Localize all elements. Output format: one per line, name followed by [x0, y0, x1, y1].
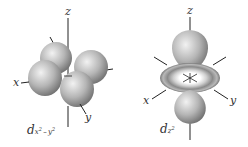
z-axis-label: z	[65, 6, 71, 17]
x-axis-front-line	[152, 90, 166, 99]
x-axis-back-line	[154, 57, 167, 65]
y-axis-back-line	[213, 57, 226, 65]
x-axis-label: x	[143, 95, 149, 106]
orbital-label-dx2-y2: dx2 – y2	[27, 124, 55, 136]
y-axis-front-line	[214, 90, 228, 99]
z-axis-label: z	[187, 5, 193, 16]
lobe-left	[28, 60, 62, 96]
y-axis-label: y	[230, 95, 236, 106]
x-axis-label: x	[13, 77, 19, 88]
x-axis-front-line	[21, 82, 29, 83]
y-axis-label: y	[85, 112, 91, 123]
orbital-label-dz2: dz2	[160, 123, 175, 135]
dx2-y2-orbital	[21, 18, 113, 127]
lobe-bottom	[174, 90, 206, 124]
